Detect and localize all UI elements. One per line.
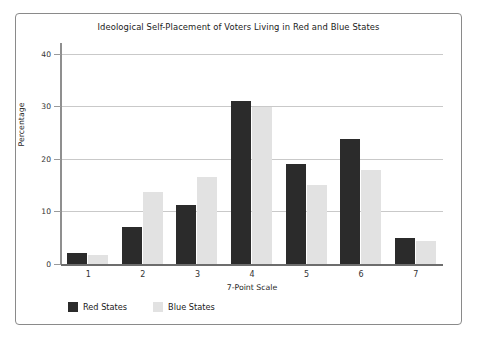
y-axis-tick-label: 10 [29, 207, 51, 216]
x-axis-tick-label: 5 [292, 270, 322, 279]
chart-legend: Red States Blue States [68, 300, 215, 314]
plot-area [61, 43, 443, 264]
y-axis-tick-label: 40 [29, 50, 51, 59]
bar-blue-states-7 [416, 241, 436, 264]
bar-blue-states-4 [252, 107, 272, 264]
x-axis-tick-label: 3 [182, 270, 212, 279]
bar-blue-states-3 [197, 177, 217, 264]
chart-figure: Ideological Self-Placement of Voters Liv… [0, 0, 478, 338]
x-axis-tick-label: 6 [346, 270, 376, 279]
y-axis-line [60, 43, 62, 265]
legend-swatch-blue-icon [153, 302, 163, 312]
legend-label-blue-states: Blue States [168, 302, 215, 312]
y-axis-tick-label: 0 [29, 260, 51, 269]
bar-red-states-4 [231, 101, 251, 264]
legend-label-red-states: Red States [83, 302, 127, 312]
bar-blue-states-1 [88, 255, 108, 264]
y-axis-tick-label: 30 [29, 102, 51, 111]
x-axis-tick-label: 4 [237, 270, 267, 279]
bar-red-states-7 [395, 238, 415, 264]
x-axis-tick-label: 2 [128, 270, 158, 279]
bar-red-states-5 [286, 164, 306, 264]
legend-item-blue-states[interactable]: Blue States [153, 302, 215, 312]
x-axis-title: 7-Point Scale [61, 283, 443, 292]
y-axis-tick-label: 20 [29, 155, 51, 164]
bar-blue-states-5 [307, 185, 327, 264]
bar-blue-states-2 [143, 192, 163, 264]
bar-red-states-3 [176, 205, 196, 264]
bar-blue-states-6 [361, 170, 381, 264]
x-axis-line [61, 264, 443, 266]
chart-title: Ideological Self-Placement of Voters Liv… [15, 22, 462, 32]
y-axis-title: Percentage [17, 80, 26, 170]
y-axis-tick [54, 264, 61, 265]
x-axis-tick-label: 1 [73, 270, 103, 279]
bar-red-states-6 [340, 139, 360, 264]
legend-swatch-red-icon [68, 302, 78, 312]
y-axis-tick [54, 159, 61, 160]
bar-red-states-1 [67, 253, 87, 264]
x-axis-tick-label: 7 [401, 270, 431, 279]
y-axis-tick [54, 54, 61, 55]
bar-red-states-2 [122, 227, 142, 264]
y-axis-tick [54, 106, 61, 107]
gridline [61, 54, 443, 55]
y-axis-tick [54, 211, 61, 212]
legend-item-red-states[interactable]: Red States [68, 302, 127, 312]
